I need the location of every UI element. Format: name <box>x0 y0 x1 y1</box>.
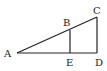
label-a: A <box>3 48 12 59</box>
label-c: C <box>93 5 101 16</box>
label-d: D <box>95 57 103 68</box>
geometry-diagram: A B C E D <box>0 0 107 71</box>
label-b: B <box>63 17 70 28</box>
label-e: E <box>66 57 73 68</box>
segment-ac <box>17 17 97 53</box>
